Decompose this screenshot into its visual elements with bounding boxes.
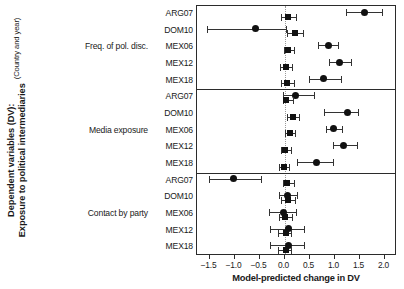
ci-cap-low xyxy=(329,59,330,66)
x-axis-tick-label: 1.0 xyxy=(328,260,339,270)
ci-cap-low xyxy=(287,114,288,121)
ci-cap-high xyxy=(296,14,297,21)
x-axis-tick xyxy=(334,255,335,259)
point-marker-square xyxy=(292,30,298,36)
ci-cap-low xyxy=(279,214,280,221)
ci-cap-high xyxy=(382,9,383,16)
ci-cap-low xyxy=(326,126,327,133)
point-marker-circle xyxy=(252,25,259,32)
ci-cap-high xyxy=(357,142,358,149)
ci-cap-high xyxy=(289,164,290,171)
x-axis-tick xyxy=(309,255,310,259)
ci-cap-low xyxy=(318,42,319,49)
point-marker-square xyxy=(284,80,290,86)
group-label-contact-by-party: Contact by party xyxy=(88,208,148,218)
ci-cap-low xyxy=(278,230,279,237)
x-axis: Model-predicted change in DV −1.5−1.0−0.… xyxy=(196,255,396,289)
row-label-mex06: MEX06 xyxy=(166,208,193,218)
x-axis-tick xyxy=(359,255,360,259)
panel-divider xyxy=(197,89,395,90)
row-label-dom10: DOM10 xyxy=(164,191,193,201)
ci-cap-high xyxy=(291,147,292,154)
row-label-mex12: MEX12 xyxy=(166,225,193,235)
forest-plot-figure: Dependent variables (DV): Exposure to po… xyxy=(0,0,404,289)
point-marker-circle xyxy=(325,42,332,49)
point-marker-square xyxy=(282,147,288,153)
ci-cap-high xyxy=(297,192,298,199)
ci-cap-low xyxy=(207,26,208,33)
point-marker-square xyxy=(283,230,289,236)
ci-cap-low xyxy=(269,209,270,216)
x-axis-tick xyxy=(284,255,285,259)
row-label-mex06: MEX06 xyxy=(166,125,193,135)
ci-cap-high xyxy=(293,97,294,104)
x-axis-tick xyxy=(234,255,235,259)
point-marker-square xyxy=(283,247,289,253)
ci-cap-low xyxy=(281,197,282,204)
group-label-freq-pol-disc: Freq. of pol. disc. xyxy=(85,41,148,51)
ci-cap-high xyxy=(342,126,343,133)
row-label-mex18: MEX18 xyxy=(166,241,193,251)
ci-cap-high xyxy=(291,247,292,254)
ci-cap-low xyxy=(270,242,271,249)
point-marker-square xyxy=(282,214,288,220)
row-label-column: ARG07DOM10MEX06MEX12MEX18ARG07DOM10MEX06… xyxy=(150,5,196,255)
ci-cap-low xyxy=(280,64,281,71)
ci-cap-high xyxy=(291,230,292,237)
x-axis-tick-label: −1.0 xyxy=(226,260,242,270)
x-axis-tick-label: 2.0 xyxy=(378,260,389,270)
ci-cap-high xyxy=(294,180,295,187)
ci-cap-low xyxy=(281,14,282,21)
ci-cap-low xyxy=(346,9,347,16)
row-label-dom10: DOM10 xyxy=(164,25,193,35)
row-label-mex12: MEX12 xyxy=(166,141,193,151)
ci-cap-low xyxy=(279,192,280,199)
group-label-media-exposure: Media exposure xyxy=(89,125,148,135)
row-label-arg07: ARG07 xyxy=(166,8,193,18)
row-label-mex18: MEX18 xyxy=(166,158,193,168)
ci-cap-high xyxy=(299,114,300,121)
ci-cap-high xyxy=(304,242,305,249)
x-axis-tick-label: 0.0 xyxy=(278,260,289,270)
ci-cap-high xyxy=(351,59,352,66)
plot-area xyxy=(196,5,396,255)
point-marker-circle xyxy=(330,125,337,132)
y-axis-title-line1: Dependent variables (DV): xyxy=(6,104,17,217)
ci-cap-high xyxy=(294,47,295,54)
panel-divider xyxy=(197,173,395,174)
y-axis-title: Dependent variables (DV): Exposure to po… xyxy=(0,0,34,255)
ci-cap-low xyxy=(209,176,210,183)
ci-cap-high xyxy=(295,130,296,137)
point-marker-square xyxy=(283,64,289,70)
ci-cap-high xyxy=(358,109,359,116)
point-marker-square xyxy=(285,14,291,20)
point-marker-square xyxy=(284,180,290,186)
point-marker-circle xyxy=(230,175,237,182)
ci-cap-high xyxy=(296,209,297,216)
point-marker-circle xyxy=(361,9,368,16)
ci-cap-low xyxy=(281,80,282,87)
ci-cap-high xyxy=(341,76,342,83)
confidence-interval-line xyxy=(324,112,358,113)
ci-cap-high xyxy=(304,226,305,233)
y-axis-title-line2: Exposure to political intermediaries xyxy=(17,83,28,237)
point-marker-square xyxy=(285,47,291,53)
x-axis-tick-label: −0.5 xyxy=(251,260,267,270)
row-label-mex12: MEX12 xyxy=(166,58,193,68)
ci-cap-low xyxy=(309,76,310,83)
point-marker-square xyxy=(283,97,289,103)
x-axis-tick-label: −1.5 xyxy=(201,260,217,270)
ci-cap-high xyxy=(292,214,293,221)
ci-cap-high xyxy=(295,197,296,204)
point-marker-square xyxy=(281,164,287,170)
point-marker-circle xyxy=(313,159,320,166)
point-marker-square xyxy=(290,114,296,120)
point-marker-circle xyxy=(320,75,327,82)
point-marker-square xyxy=(287,130,293,136)
row-label-mex06: MEX06 xyxy=(166,41,193,51)
ci-cap-low xyxy=(297,159,298,166)
ci-cap-low xyxy=(333,142,334,149)
row-label-mex18: MEX18 xyxy=(166,75,193,85)
ci-cap-low xyxy=(287,30,288,37)
row-label-arg07: ARG07 xyxy=(166,91,193,101)
